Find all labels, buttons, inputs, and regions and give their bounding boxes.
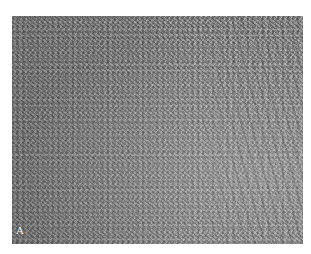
- panel-label: A: [16, 225, 24, 236]
- fibrous-streaks: [12, 16, 303, 244]
- micrograph-image: [12, 16, 303, 244]
